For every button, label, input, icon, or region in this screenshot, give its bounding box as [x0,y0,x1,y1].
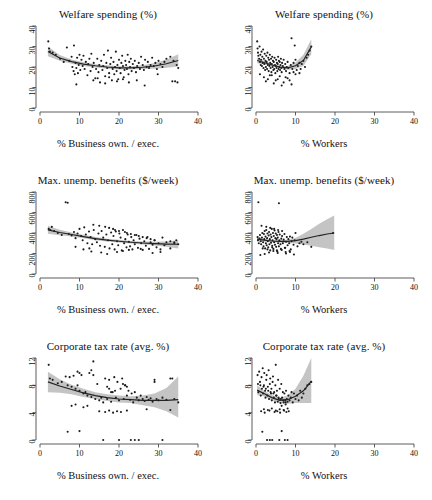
y-tick-label: 12 [244,358,253,380]
y-tick-label: 8 [244,385,253,407]
x-tick-label: 30 [365,117,385,126]
y-tick-label: 40 [244,26,253,48]
x-tick-label: 10 [70,283,90,292]
x-tick-label: 30 [149,283,169,292]
y-tick-label: 20 [28,67,37,89]
x-tick-label: 20 [109,449,129,458]
y-tick-label: 8 [28,385,37,407]
x-tick-label: 30 [365,449,385,458]
confidence-band [48,372,178,418]
y-tick-label: 800 [244,192,253,214]
x-tick-label: 20 [325,117,345,126]
x-tick-label: 0 [246,117,266,126]
scatter-points [48,201,180,255]
x-tick-label: 20 [109,283,129,292]
x-tick-label: 40 [404,117,424,126]
y-tick-label: 30 [28,46,37,68]
x-tick-label: 0 [30,117,50,126]
y-tick-label: 12 [28,358,37,380]
x-tick-label: 40 [404,283,424,292]
x-tick-label: 10 [70,449,90,458]
x-tick-label: 10 [286,449,306,458]
y-tick-label: 600 [244,212,253,234]
y-tick-label: 400 [244,233,253,255]
y-tick-label: 4 [28,412,37,434]
panel-unemp-business: Max. unemp. benefits ($/week)% Business … [0,166,216,332]
x-tick-label: 40 [404,449,424,458]
confidence-band [48,47,178,70]
panel-tax-business: Corporate tax rate (avg. %)% Business ow… [0,332,216,498]
x-tick-label: 0 [246,449,266,458]
x-tick-label: 0 [30,283,50,292]
panel-unemp-workers: Max. unemp. benefits ($/week)% Workers02… [216,166,432,332]
figure-panel-grid: Welfare spending (%)% Business own. / ex… [0,0,432,500]
y-tick-label: 20 [244,67,253,89]
x-tick-label: 10 [70,117,90,126]
y-tick-label: 400 [28,233,37,255]
y-tick-label: 200 [244,253,253,275]
x-tick-label: 10 [286,283,306,292]
y-tick-label: 200 [28,253,37,275]
x-tick-label: 0 [246,283,266,292]
x-tick-label: 20 [109,117,129,126]
x-tick-label: 40 [188,449,208,458]
x-tick-label: 0 [30,449,50,458]
y-tick-label: 4 [244,412,253,434]
y-tick-label: 40 [28,26,37,48]
x-tick-label: 20 [325,449,345,458]
panel-welfare-workers: Welfare spending (%)% Workers01020304001… [216,0,432,166]
panel-tax-workers: Corporate tax rate (avg. %)% Workers0481… [216,332,432,498]
y-tick-label: 10 [244,87,253,109]
x-tick-label: 30 [149,449,169,458]
x-tick-label: 40 [188,283,208,292]
x-tick-label: 30 [149,117,169,126]
y-tick-label: 30 [244,46,253,68]
y-tick-label: 10 [28,87,37,109]
x-tick-label: 40 [188,117,208,126]
x-tick-label: 10 [286,117,306,126]
x-tick-label: 30 [365,283,385,292]
y-tick-label: 600 [28,212,37,234]
y-tick-label: 800 [28,192,37,214]
x-tick-label: 20 [325,283,345,292]
panel-welfare-business: Welfare spending (%)% Business own. / ex… [0,0,216,166]
